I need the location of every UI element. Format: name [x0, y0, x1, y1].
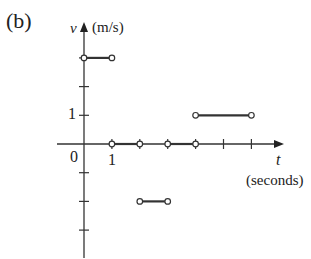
y-axis-label: v [70, 20, 77, 37]
open-circle-icon [165, 141, 171, 147]
y-axis-unit: (m/s) [92, 19, 124, 36]
open-circle-icon [109, 55, 115, 61]
open-circle-icon [193, 141, 199, 147]
origin-label: 0 [70, 148, 78, 166]
velocity-step-graph [0, 0, 311, 259]
x-axis-unit: (seconds) [246, 172, 303, 189]
x-tick-label-1: 1 [108, 151, 116, 169]
x-axis-label: t [276, 151, 280, 169]
x-axis-arrow-icon [274, 140, 284, 148]
open-circle-icon [137, 141, 143, 147]
data-segments [81, 55, 254, 204]
open-circle-icon [81, 55, 87, 61]
open-circle-icon [249, 113, 255, 119]
y-axis-arrow-icon [80, 22, 88, 32]
open-circle-icon [109, 141, 115, 147]
y-tick-label-1: 1 [68, 105, 76, 123]
panel-label: (b) [6, 8, 32, 34]
open-circle-icon [165, 199, 171, 205]
open-circle-icon [137, 199, 143, 205]
open-circle-icon [193, 113, 199, 119]
